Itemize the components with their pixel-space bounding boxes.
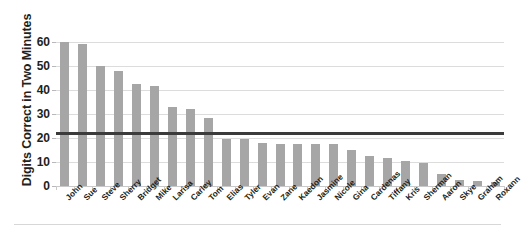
bar (78, 44, 87, 186)
bar (204, 118, 213, 186)
bar (365, 156, 374, 186)
y-axis-tick-mark (52, 90, 56, 91)
bar (186, 109, 195, 186)
bar (258, 143, 267, 186)
y-axis-tick-label: 60 (28, 36, 50, 48)
y-axis-tick-label: 40 (28, 84, 50, 96)
plot-area (56, 36, 504, 186)
y-axis-tick-label: 10 (28, 156, 50, 168)
bar (293, 144, 302, 186)
y-axis-tick-label: 50 (28, 60, 50, 72)
y-axis-tick-label: 30 (28, 108, 50, 120)
y-axis-tick-label: 0 (28, 180, 50, 192)
x-axis-tick-labels: JohnSueSteveSherryBridgetMikeLarisaCarle… (56, 190, 509, 232)
bar (276, 144, 285, 186)
bar (150, 86, 159, 186)
bar (96, 66, 105, 186)
bar (222, 139, 231, 186)
y-axis-tick-mark (52, 138, 56, 139)
bars-group (56, 36, 504, 186)
bar (168, 107, 177, 186)
bottom-divider (14, 224, 501, 225)
bar (419, 163, 428, 186)
bar (114, 71, 123, 186)
bar (240, 139, 249, 186)
y-axis-tick-mark (52, 114, 56, 115)
y-axis-tick-mark (52, 162, 56, 163)
y-axis-tick-mark (52, 42, 56, 43)
y-axis-tick-labels: 0102030405060 (22, 0, 50, 232)
y-axis-tick-mark (52, 186, 56, 187)
bar (60, 42, 69, 186)
reference-line (56, 132, 504, 135)
y-axis-tick-label: 20 (28, 132, 50, 144)
y-axis-tick-mark (52, 66, 56, 67)
